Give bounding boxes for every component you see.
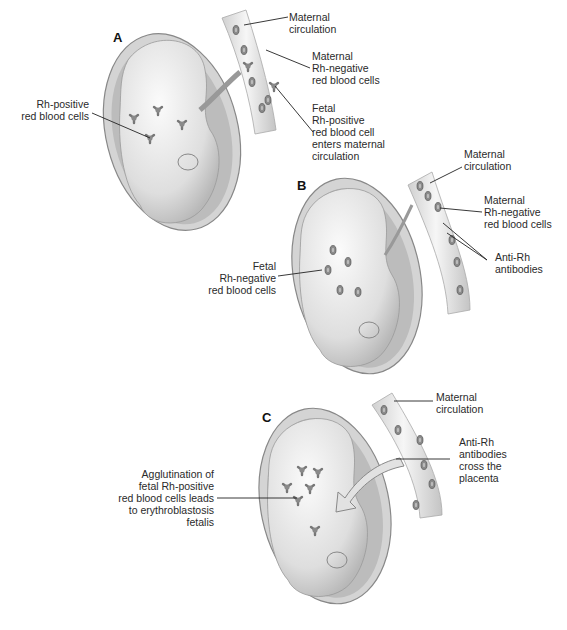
panel-letter-a: A — [113, 30, 122, 45]
panel-a-uterus — [84, 19, 260, 245]
label-c-maternal-circulation: Maternal circulation — [436, 391, 483, 415]
label-b-fetal-rh-negative: Fetal Rh-negative red blood cells — [196, 260, 276, 296]
label-b-maternal-circulation: Maternal circulation — [464, 148, 511, 172]
label-c-agglutination: Agglutination of fetal Rh-positive red b… — [100, 468, 214, 528]
label-b-maternal-rh-negative: Maternal Rh-negative red blood cells — [484, 194, 552, 230]
label-a-rh-positive-cells: Rh-positive red blood cells — [17, 98, 89, 122]
panel-c-uterus — [242, 396, 408, 616]
panel-letter-b: B — [297, 178, 306, 193]
label-b-anti-rh-antibodies: Anti-Rh antibodies — [495, 251, 543, 275]
label-a-maternal-rh-negative: Maternal Rh-negative red blood cells — [312, 50, 380, 86]
label-c-anti-rh-cross-placenta: Anti-Rh antibodies cross the placenta — [459, 436, 507, 484]
label-a-fetal-rh-positive-enters: Fetal Rh-positive red blood cell enters … — [312, 102, 385, 162]
panel-letter-c: C — [262, 410, 271, 425]
label-a-maternal-circulation: Maternal circulation — [289, 11, 336, 35]
illustration — [0, 0, 567, 630]
